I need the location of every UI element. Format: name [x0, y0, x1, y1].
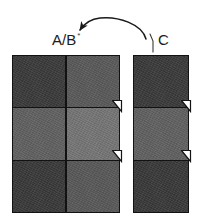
- cell-ab-r1c1[interactable]: [13, 56, 65, 107]
- label-a-b: A/B*: [52, 32, 79, 47]
- block-ab[interactable]: [12, 55, 120, 213]
- cell-ab-r3c1[interactable]: [13, 161, 65, 212]
- cell-c-r1c1[interactable]: [134, 56, 188, 107]
- label-c: C: [158, 32, 169, 47]
- cell-ab-r2c1[interactable]: [13, 108, 65, 159]
- label-a-b-superscript: *: [77, 31, 80, 40]
- cell-ab-r2c2[interactable]: [67, 108, 119, 159]
- cell-c-r3c1[interactable]: [134, 161, 188, 212]
- cell-ab-r3c2[interactable]: [67, 161, 119, 212]
- cell-ab-r1c2[interactable]: [67, 56, 119, 107]
- label-c-text: C: [158, 31, 169, 48]
- cell-c-r2c1[interactable]: [134, 108, 188, 159]
- figure-canvas: A/B* C: [0, 0, 201, 223]
- c-leader-line: [150, 34, 153, 52]
- block-c[interactable]: [133, 55, 189, 213]
- curved-arrow: [80, 18, 146, 39]
- label-a-b-text: A/B: [52, 31, 76, 48]
